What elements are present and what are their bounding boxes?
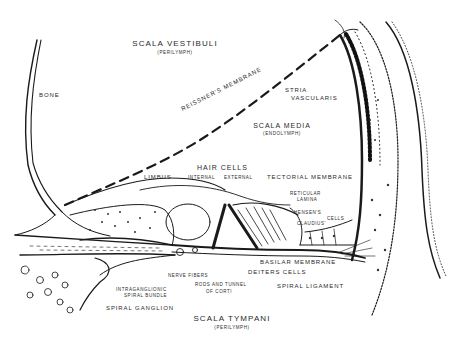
label-hair-cells-internal: INTERNAL	[188, 176, 215, 181]
label-limbus: LIMBUS	[144, 174, 172, 180]
label-scala-tympani-fluid: (PERILYMPH)	[214, 326, 249, 331]
label-nerve-fibers: NERVE FIBERS	[168, 274, 208, 279]
label-reticular-line1: RETICULAR	[290, 192, 321, 197]
label-tectorial-membrane: TECTORIAL MEMBRANE	[267, 174, 353, 180]
limbus	[65, 178, 225, 245]
label-claudius: CLAUDIUS'	[297, 222, 326, 227]
label-deiters-cells: DEITERS CELLS	[248, 269, 306, 275]
label-bone: BONE	[39, 92, 60, 98]
label-hensens: HENSEN'S	[294, 211, 321, 216]
label-intraganglionic-line1: INTRAGANGLIONIC	[116, 288, 167, 293]
label-spiral-ganglion: SPIRAL GANGLION	[106, 305, 174, 311]
label-spiral-ligament: SPIRAL LIGAMENT	[277, 283, 344, 289]
label-basilar-membrane: BASILAR MEMBRANE	[260, 259, 336, 265]
spiral-ganglion-region	[21, 248, 198, 314]
bone-wall-left	[15, 40, 110, 236]
stria-vascularis	[340, 32, 380, 260]
label-intraganglionic-line2: SPIRAL BUNDLE	[124, 294, 167, 299]
label-scala-media-fluid: (ENDOLYMPH)	[263, 132, 301, 137]
label-stria-line2: VASCULARIS	[291, 95, 338, 101]
label-hair-cells: HAIR CELLS	[197, 164, 248, 171]
label-hair-cells-external: EXTERNAL	[224, 176, 253, 181]
inner-sulcus	[166, 204, 210, 240]
label-rods-tunnel-line2: OF CORTI	[206, 290, 232, 295]
label-scala-vestibuli: SCALA VESTIBULI	[132, 40, 217, 48]
label-scala-media: SCALA MEDIA	[253, 122, 311, 129]
spiral-ligament	[360, 22, 446, 315]
label-stria-line1: STRIA	[285, 87, 307, 93]
label-scala-vestibuli-fluid: (PERILYMPH)	[157, 51, 192, 56]
label-scala-tympani: SCALA TYMPANI	[193, 315, 270, 323]
label-cells: CELLS	[327, 217, 344, 222]
label-rods-tunnel-line1: RODS AND TUNNEL	[195, 283, 247, 288]
tectorial-membrane	[140, 185, 290, 205]
label-reticular-line2: LAMINA	[297, 198, 317, 203]
organ-of-corti	[213, 203, 355, 248]
